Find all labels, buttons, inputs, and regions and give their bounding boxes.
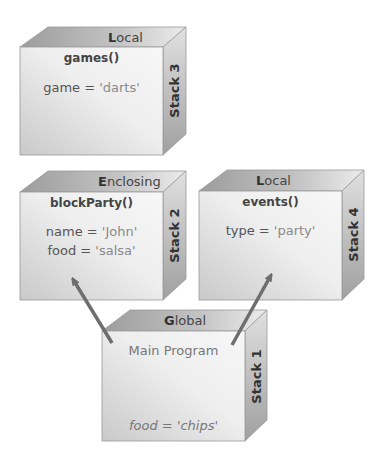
variable-row: game = 'darts' (20, 80, 163, 95)
function-name: blockParty() (20, 196, 163, 210)
scope-title-local: Local (108, 30, 143, 45)
function-name: games() (20, 51, 163, 65)
scope-title-local: Local (256, 173, 291, 188)
variable-row: food = 'chips' (102, 418, 245, 433)
variable-row: food = 'salsa' (20, 243, 163, 258)
variable-row: name = 'John' (20, 224, 163, 239)
scope-title-global: Global (164, 313, 206, 328)
cube-top-face (20, 27, 186, 47)
variable-row: type = 'party' (199, 223, 342, 238)
stack-label: Stack 3 (167, 61, 182, 121)
main-program-label: Main Program (102, 343, 245, 358)
stack-label: Stack 4 (346, 205, 361, 265)
stack-label: Stack 2 (167, 206, 182, 266)
stack-label: Stack 1 (249, 347, 264, 407)
scope-title-enclosing: Enclosing (98, 174, 161, 189)
function-name: events() (199, 195, 342, 209)
